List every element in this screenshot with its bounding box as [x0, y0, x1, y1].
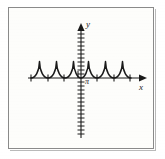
plot-area: y x π: [8, 7, 154, 149]
y-axis-label: y: [86, 20, 90, 29]
x-tick-label-pi: π: [85, 78, 89, 86]
x-axis-label: x: [139, 83, 143, 92]
x-axis-arrowhead: [139, 74, 147, 81]
y-axis-arrowhead: [77, 23, 84, 31]
graph-figure: y x π: [0, 0, 165, 159]
coordinate-plot-svg: [8, 7, 154, 149]
